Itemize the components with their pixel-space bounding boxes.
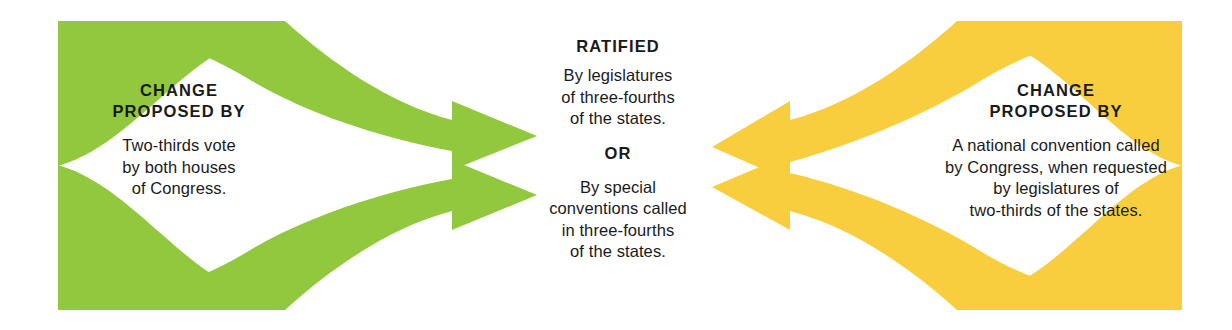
or-connector-label: OR [516, 143, 720, 164]
right-proposal-panel: CHANGE PROPOSED BY A national convention… [922, 80, 1190, 221]
right-panel-body: A national convention called by Congress… [922, 135, 1190, 221]
amendment-process-diagram: CHANGE PROPOSED BY Two-thirds vote by bo… [0, 0, 1232, 330]
right-panel-heading: CHANGE PROPOSED BY [922, 80, 1190, 122]
ratified-heading: RATIFIED [516, 36, 720, 57]
ratification-option-1: By legislatures of three-fourths of the … [516, 65, 720, 130]
ratification-panel: RATIFIED By legislatures of three-fourth… [516, 36, 720, 263]
left-proposal-panel: CHANGE PROPOSED BY Two-thirds vote by bo… [74, 80, 284, 200]
left-panel-body: Two-thirds vote by both houses of Congre… [74, 135, 284, 200]
left-panel-heading: CHANGE PROPOSED BY [74, 80, 284, 122]
ratification-option-2: By special conventions called in three-f… [516, 177, 720, 263]
